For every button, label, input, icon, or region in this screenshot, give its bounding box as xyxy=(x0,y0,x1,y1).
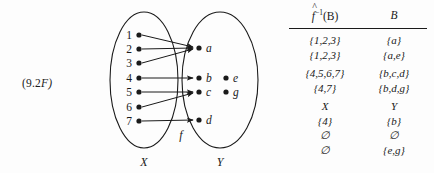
codomain-set-label-y: Y xyxy=(217,155,225,169)
cell-preimage: {4,7} xyxy=(289,81,361,96)
domain-label-7: 7 xyxy=(126,115,132,127)
function-mapping-diagram: 1 2 3 4 5 6 7 a b c d e g f X Y xyxy=(0,0,290,173)
column-header-set-b: B xyxy=(361,8,427,29)
table-row: ∅ ∅ xyxy=(289,128,427,143)
codomain-label-g: g xyxy=(233,86,239,99)
cell-set-b: {b,c,d} xyxy=(361,66,427,81)
preimage-table-body: {1,2,3} {a} {1,2,3} {a,e} {4,5,6,7} {b,c… xyxy=(289,29,427,158)
domain-label-4: 4 xyxy=(126,72,132,84)
cell-preimage: X xyxy=(289,99,361,114)
column-header-preimage: ^f−1(B) xyxy=(289,8,361,29)
table-row: {1,2,3} {a} xyxy=(289,29,427,48)
preimage-table: ^f−1(B) B {1,2,3} {a} {1,2,3} {a,e} {4, xyxy=(289,8,427,157)
codomain-label-d: d xyxy=(206,114,212,126)
cell-set-b: Y xyxy=(361,99,427,114)
codomain-label-c: c xyxy=(206,86,211,98)
domain-dot-5 xyxy=(136,89,141,94)
table-row: {4,5,6,7} {b,c,d} xyxy=(289,66,427,81)
domain-dot-2 xyxy=(136,46,141,51)
cell-preimage: {4,5,6,7} xyxy=(289,66,361,81)
cell-set-b: ∅ xyxy=(361,128,427,143)
cell-set-b: {e,g} xyxy=(361,143,427,158)
codomain-dot-e xyxy=(223,75,228,80)
function-label-f: f xyxy=(179,128,184,142)
table-row: {1,2,3} {a,e} xyxy=(289,48,427,63)
table-header-row: ^f−1(B) B xyxy=(289,8,427,29)
codomain-label-e: e xyxy=(233,72,238,84)
cell-preimage: {4} xyxy=(289,114,361,129)
cell-set-b: {a,e} xyxy=(361,48,427,63)
codomain-ellipse-y xyxy=(182,12,258,148)
codomain-dot-b xyxy=(196,75,201,80)
figure-page: (9.2F) xyxy=(0,0,434,173)
domain-set-label-x: X xyxy=(139,155,148,169)
arrow-2-to-a xyxy=(142,48,193,49)
table-row: {4} {b} xyxy=(289,114,427,129)
table-row: X Y xyxy=(289,99,427,114)
domain-dot-7 xyxy=(136,118,141,123)
domain-dot-6 xyxy=(136,104,141,109)
table-row: {4,7} {b,d,g} xyxy=(289,81,427,96)
hat-accent-icon: ^ xyxy=(312,2,315,12)
codomain-dot-g xyxy=(223,89,228,94)
codomain-dot-c xyxy=(196,89,201,94)
arrow-3-to-a xyxy=(142,49,193,63)
arrow-7-to-d xyxy=(142,120,193,121)
cell-set-b: {a} xyxy=(361,29,427,48)
domain-label-2: 2 xyxy=(126,43,132,55)
domain-dot-4 xyxy=(136,75,141,80)
domain-label-1: 1 xyxy=(126,29,132,41)
codomain-point-group xyxy=(196,45,228,122)
domain-ellipse-x xyxy=(110,12,178,148)
header-argument: (B) xyxy=(323,10,338,22)
codomain-label-b: b xyxy=(206,72,212,84)
cell-preimage: ∅ xyxy=(289,143,361,158)
arrow-1-to-a xyxy=(142,35,193,47)
cell-preimage: {1,2,3} xyxy=(289,48,361,63)
domain-dot-1 xyxy=(136,32,141,37)
cell-set-b: {b} xyxy=(361,114,427,129)
domain-label-6: 6 xyxy=(126,101,132,113)
codomain-dot-a xyxy=(196,45,201,50)
cell-set-b: {b,d,g} xyxy=(361,81,427,96)
preimage-table-head: ^f−1(B) B xyxy=(289,8,427,29)
domain-dot-3 xyxy=(136,60,141,65)
codomain-label-a: a xyxy=(206,42,212,54)
domain-label-5: 5 xyxy=(126,86,132,98)
cell-preimage: {1,2,3} xyxy=(289,29,361,48)
table-row: ∅ {e,g} xyxy=(289,143,427,158)
codomain-dot-d xyxy=(196,117,201,122)
cell-preimage: ∅ xyxy=(289,128,361,143)
domain-label-3: 3 xyxy=(126,57,132,69)
f-hat-glyph: ^f xyxy=(312,9,315,24)
domain-point-group xyxy=(136,32,141,123)
arrow-6-to-c xyxy=(142,93,193,107)
